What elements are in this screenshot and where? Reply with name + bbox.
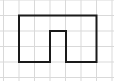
grid-diagram (0, 0, 114, 81)
figure-outline (19, 16, 97, 63)
